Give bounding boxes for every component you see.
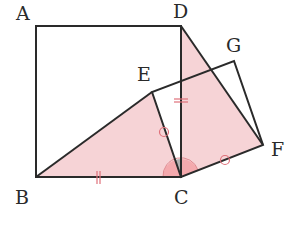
label-A: A: [15, 2, 30, 24]
triangle-BEC-shade: [36, 92, 181, 177]
triangle-DCF-shade: [181, 26, 263, 177]
label-B: B: [15, 186, 29, 208]
geometry-diagram: A D G E B C F: [0, 0, 296, 232]
label-G: G: [226, 34, 241, 56]
label-E: E: [137, 63, 151, 85]
label-C: C: [174, 186, 189, 208]
label-D: D: [173, 0, 188, 22]
label-F: F: [271, 138, 284, 160]
